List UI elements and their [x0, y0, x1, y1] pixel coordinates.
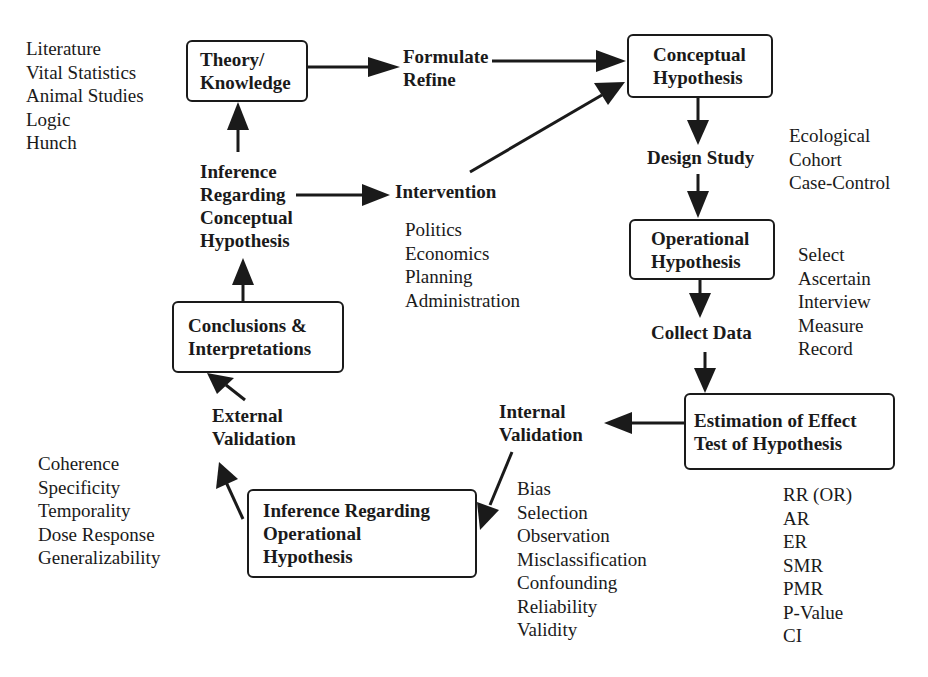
label-line: External — [212, 404, 296, 427]
operational-hypothesis-box: Operational Hypothesis — [629, 219, 775, 280]
arrowhead-icon — [594, 82, 625, 105]
inference-conceptual-label: Inference Regarding Conceptual Hypothesi… — [200, 160, 293, 252]
list-item: Administration — [405, 289, 520, 313]
list-item: Interview — [798, 290, 871, 314]
arrowhead-icon — [362, 184, 390, 206]
measures-list: RR (OR) AR ER SMR PMR P-Value CI — [783, 483, 852, 648]
label-line: Refine — [403, 68, 488, 91]
box-line: Inference Regarding — [263, 499, 475, 522]
list-item: Ascertain — [798, 267, 871, 291]
list-item: CI — [783, 624, 852, 648]
list-item: Specificity — [38, 476, 160, 500]
box-line: Hypothesis — [263, 545, 475, 568]
list-item: Economics — [405, 242, 520, 266]
list-item: Measure — [798, 314, 871, 338]
list-item: Planning — [405, 265, 520, 289]
list-item: Logic — [26, 108, 144, 132]
list-item: ER — [783, 530, 852, 554]
list-item: Bias — [517, 477, 647, 501]
list-item: Confounding — [517, 571, 647, 595]
formulate-refine-label: Formulate Refine — [403, 45, 488, 91]
list-item: Temporality — [38, 499, 160, 523]
arrowhead-icon — [368, 57, 400, 77]
box-line: Operational — [651, 227, 773, 250]
list-item: Politics — [405, 218, 520, 242]
box-line: Estimation of Effect — [694, 409, 893, 432]
arrowhead-icon — [596, 50, 626, 72]
arrowhead-icon — [227, 102, 249, 130]
external-criteria-list: Coherence Specificity Temporality Dose R… — [38, 452, 160, 570]
label-line: Intervention — [395, 180, 496, 203]
list-item: SMR — [783, 554, 852, 578]
arrowhead-icon — [687, 191, 709, 218]
box-line: Theory/ — [200, 48, 306, 71]
internal-criteria-list: Bias Selection Observation Misclassifica… — [517, 477, 647, 642]
box-line: Interpretations — [188, 337, 342, 360]
list-item: Misclassification — [517, 548, 647, 572]
box-line: Knowledge — [200, 71, 306, 94]
list-item: Hunch — [26, 131, 144, 155]
arrow-internal-to-inference-operational — [490, 452, 512, 505]
list-item: Cohort — [789, 148, 890, 172]
list-item: Reliability — [517, 595, 647, 619]
label-line: Inference — [200, 160, 293, 183]
list-item: PMR — [783, 577, 852, 601]
label-line: Validation — [212, 427, 296, 450]
arrowhead-icon — [207, 373, 234, 394]
list-item: Dose Response — [38, 523, 160, 547]
arrow-external-to-conclusions — [226, 385, 245, 400]
arrow-intervention-to-conceptual — [470, 95, 602, 172]
collect-data-label: Collect Data — [651, 321, 752, 344]
arrowhead-icon — [232, 258, 254, 285]
label-line: Regarding — [200, 183, 293, 206]
estimation-of-effect-box: Estimation of Effect Test of Hypothesis — [684, 393, 895, 470]
box-line: Operational — [263, 522, 475, 545]
list-item: Record — [798, 337, 871, 361]
list-item: P-Value — [783, 601, 852, 625]
label-line: Design Study — [647, 146, 754, 169]
sources-list: Literature Vital Statistics Animal Studi… — [26, 37, 144, 155]
list-item: Selection — [517, 501, 647, 525]
arrowhead-icon — [694, 368, 716, 393]
label-line: Hypothesis — [200, 229, 293, 252]
list-item: Ecological — [789, 124, 890, 148]
list-item: Coherence — [38, 452, 160, 476]
list-item: Select — [798, 243, 871, 267]
internal-validation-label: Internal Validation — [499, 400, 583, 446]
study-designs-list: Ecological Cohort Case-Control — [789, 124, 890, 195]
intervention-label: Intervention — [395, 180, 496, 203]
list-item: RR (OR) — [783, 483, 852, 507]
list-item: Vital Statistics — [26, 61, 144, 85]
theory-knowledge-box: Theory/ Knowledge — [186, 40, 308, 102]
box-line: Conceptual — [653, 43, 771, 66]
inference-operational-box: Inference Regarding Operational Hypothes… — [247, 489, 477, 578]
box-line: Conclusions & — [188, 314, 342, 337]
arrow-inference-operational-to-external — [226, 482, 243, 519]
label-line: Conceptual — [200, 206, 293, 229]
box-line: Hypothesis — [653, 66, 771, 89]
arrowhead-icon — [687, 120, 709, 145]
label-line: Validation — [499, 423, 583, 446]
label-line: Internal — [499, 400, 583, 423]
arrowhead-icon — [689, 293, 711, 318]
list-item: AR — [783, 507, 852, 531]
label-line: Collect Data — [651, 321, 752, 344]
conceptual-hypothesis-box: Conceptual Hypothesis — [627, 34, 773, 98]
intervention-areas-list: Politics Economics Planning Administrati… — [405, 218, 520, 312]
list-item: Literature — [26, 37, 144, 61]
list-item: Animal Studies — [26, 84, 144, 108]
list-item: Validity — [517, 618, 647, 642]
list-item: Generalizability — [38, 546, 160, 570]
arrowhead-icon — [216, 462, 238, 489]
list-item: Case-Control — [789, 171, 890, 195]
external-validation-label: External Validation — [212, 404, 296, 450]
data-steps-list: Select Ascertain Interview Measure Recor… — [798, 243, 871, 361]
design-study-label: Design Study — [647, 146, 754, 169]
list-item: Observation — [517, 524, 647, 548]
arrowhead-icon — [477, 502, 499, 530]
arrowhead-icon — [604, 412, 632, 434]
box-line: Hypothesis — [651, 250, 773, 273]
box-line: Test of Hypothesis — [694, 432, 893, 455]
label-line: Formulate — [403, 45, 488, 68]
conclusions-box: Conclusions & Interpretations — [172, 301, 344, 373]
